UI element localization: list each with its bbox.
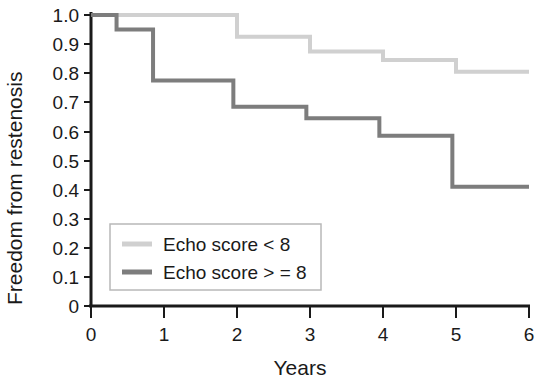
x-tick-label: 6	[524, 324, 535, 345]
x-axis-title: Years	[274, 356, 327, 379]
series-line-echo-score-lt-8	[91, 15, 529, 72]
x-tick-marks	[91, 306, 529, 318]
y-axis-title: Freedom from restenosis	[3, 72, 26, 305]
x-tick-label: 2	[232, 324, 243, 345]
restenosis-survival-chart: Freedom from restenosis 1.0 0.9 0.8 0.7 …	[0, 0, 553, 385]
y-tick-label: 1.0	[53, 5, 79, 26]
x-tick-label: 1	[159, 324, 170, 345]
y-tick-label: 0.4	[53, 180, 80, 201]
x-tick-label: 0	[86, 324, 97, 345]
y-tick-label: 0.2	[53, 238, 79, 259]
y-tick-label: 0.1	[53, 267, 79, 288]
chart-container: Freedom from restenosis 1.0 0.9 0.8 0.7 …	[0, 0, 553, 385]
legend-label-echo-score-lt-8: Echo score < 8	[163, 234, 290, 255]
y-tick-label: 0.8	[53, 63, 79, 84]
y-tick-label: 0.3	[53, 209, 79, 230]
x-tick-label: 4	[378, 324, 389, 345]
y-tick-label: 0.7	[53, 92, 79, 113]
legend: Echo score < 8 Echo score > = 8	[110, 224, 321, 290]
y-tick-label: 0	[68, 296, 79, 317]
y-tick-label: 0.9	[53, 34, 79, 55]
x-tick-labels: 0 1 2 3 4 5 6	[86, 324, 535, 345]
x-tick-label: 5	[451, 324, 462, 345]
x-tick-label: 3	[305, 324, 316, 345]
y-tick-label: 0.5	[53, 151, 79, 172]
legend-label-echo-score-gte-8: Echo score > = 8	[163, 262, 307, 283]
y-tick-label: 0.6	[53, 122, 79, 143]
y-tick-labels: 1.0 0.9 0.8 0.7 0.6 0.5 0.4 0.3 0.2 0.1 …	[53, 5, 80, 317]
